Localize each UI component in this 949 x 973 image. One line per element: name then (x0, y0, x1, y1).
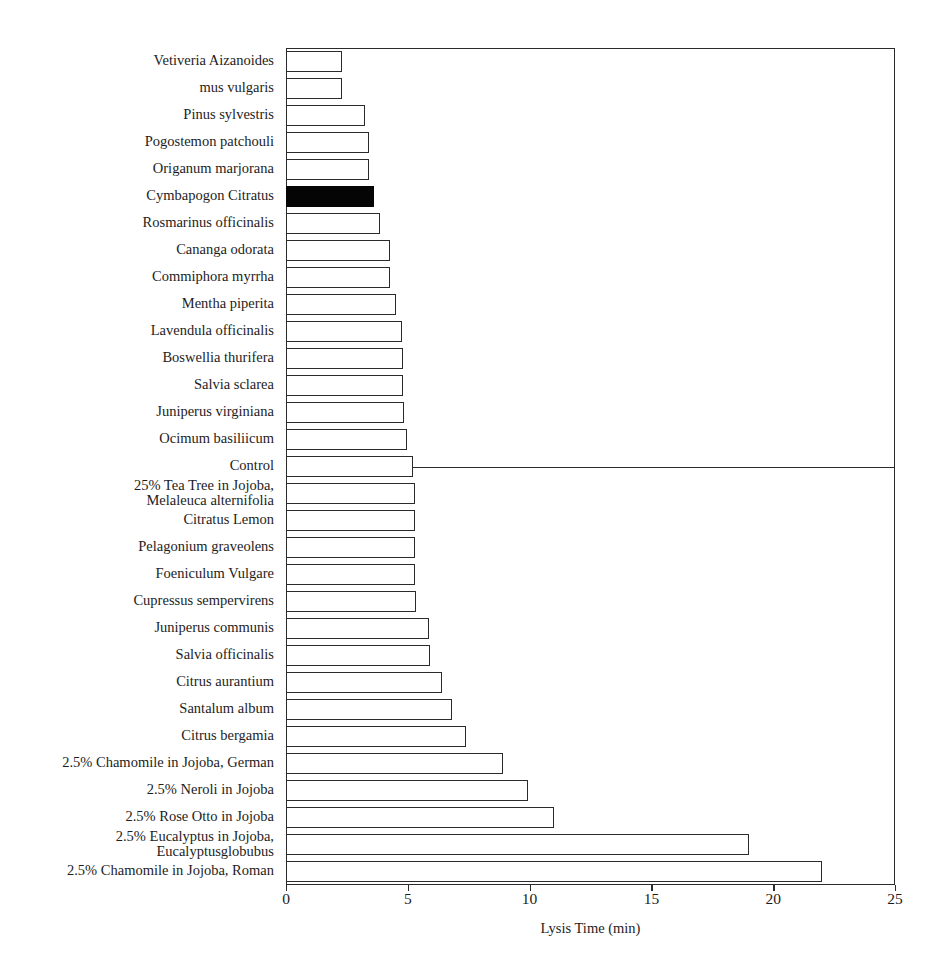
y-axis-label: 2.5% Chamomile in Jojoba, German (62, 755, 274, 771)
y-axis-label: Ocimum basiliicum (159, 431, 274, 447)
y-axis-label-line: Vetiveria Aizanoides (154, 53, 274, 69)
y-axis-label: mus vulgaris (199, 80, 274, 96)
x-axis-tick-label: 10 (522, 890, 538, 908)
bar (286, 294, 396, 316)
bar-row (286, 780, 895, 802)
bar-row (286, 807, 895, 829)
y-axis-label-line: Pinus sylvestris (183, 107, 274, 123)
y-axis-label-line: Cananga odorata (176, 242, 274, 258)
y-axis-label-line: Origanum marjorana (153, 161, 274, 177)
bar (286, 348, 403, 370)
bar-row (286, 402, 895, 424)
y-axis-label-line: Citrus bergamia (181, 728, 274, 744)
x-axis-tick-label: 0 (282, 890, 290, 908)
bar (286, 159, 369, 181)
bar-row (286, 429, 895, 451)
bar-row (286, 186, 895, 208)
y-axis-label: Foeniculum Vulgare (156, 566, 274, 582)
bar (286, 510, 415, 532)
bar (286, 456, 413, 478)
y-axis-label: 25% Tea Tree in Jojoba,Melaleuca alterni… (6, 478, 274, 509)
bar-row (286, 132, 895, 154)
y-axis-label-line: Boswellia thurifera (162, 350, 274, 366)
y-axis-label-line: Salvia sclarea (194, 377, 274, 393)
y-axis-label: Pelagonium graveolens (138, 539, 274, 555)
y-axis-label-line: Juniperus communis (154, 620, 274, 636)
bar-row (286, 753, 895, 775)
y-axis-label-line: Juniperus virginiana (156, 404, 274, 420)
y-axis-label-line: Pogostemon patchouli (145, 134, 274, 150)
y-axis-label-line: Foeniculum Vulgare (156, 566, 274, 582)
bar-row (286, 672, 895, 694)
y-axis-label-line: Eucalyptusglobubus (6, 844, 274, 860)
y-axis-label-line: 2.5% Neroli in Jojoba (147, 782, 274, 798)
bar-row (286, 699, 895, 721)
bar-row (286, 294, 895, 316)
y-axis-label: Lavendula officinalis (151, 323, 274, 339)
bar-row (286, 213, 895, 235)
bar-row (286, 240, 895, 262)
bar (286, 537, 415, 559)
bar (286, 429, 407, 451)
control-reference-line (413, 467, 895, 468)
x-axis-tick-labels: 0510152025 (286, 890, 895, 914)
y-axis-label: Santalum album (179, 701, 274, 717)
bar-row (286, 51, 895, 73)
y-axis-label: Juniperus communis (154, 620, 274, 636)
y-axis-label-line: Santalum album (179, 701, 274, 717)
y-axis-label-line: Control (230, 458, 274, 474)
y-axis-label-line: Ocimum basiliicum (159, 431, 274, 447)
y-axis-label: Boswellia thurifera (162, 350, 274, 366)
bar-row (286, 564, 895, 586)
bar-row (286, 375, 895, 397)
y-axis-label-line: Cymbapogon Citratus (146, 188, 274, 204)
x-axis-tick-label: 5 (404, 890, 412, 908)
y-axis-label: Salvia sclarea (194, 377, 274, 393)
y-axis-label: Cymbapogon Citratus (146, 188, 274, 204)
bar (286, 213, 380, 235)
bar (286, 699, 452, 721)
bar (286, 645, 430, 667)
bar-row (286, 483, 895, 505)
y-axis-label-line: Rosmarinus officinalis (143, 215, 274, 231)
y-axis-label-line: 2.5% Chamomile in Jojoba, Roman (67, 863, 274, 879)
bar-row (286, 510, 895, 532)
bar-row (286, 834, 895, 856)
y-axis-label-line: Melaleuca alternifolia (6, 493, 274, 509)
bar-row (286, 726, 895, 748)
bar (286, 105, 365, 127)
y-axis-label: Origanum marjorana (153, 161, 274, 177)
bar-row (286, 861, 895, 883)
figure-canvas: Vetiveria Aizanoidesmus vulgarisPinus sy… (0, 0, 949, 973)
page-top-clipped-text (420, 0, 940, 14)
y-axis-label: 2.5% Eucalyptus in Jojoba,Eucalyptusglob… (6, 829, 274, 860)
y-axis-label: Mentha piperita (182, 296, 274, 312)
y-axis-label: Cananga odorata (176, 242, 274, 258)
y-axis-label: Commiphora myrrha (152, 269, 274, 285)
bar (286, 618, 429, 640)
bar (286, 834, 749, 856)
y-axis-label: Salvia officinalis (176, 647, 274, 663)
bar-row (286, 321, 895, 343)
bar (286, 564, 415, 586)
bar (286, 186, 374, 208)
bar (286, 861, 822, 883)
y-axis-label-line: Citratus Lemon (183, 512, 274, 528)
y-axis-label-line: Citrus aurantium (176, 674, 274, 690)
x-axis-tick-label: 20 (765, 890, 781, 908)
bar (286, 726, 466, 748)
bar (286, 375, 403, 397)
y-axis-label-line: Cupressus sempervirens (133, 593, 274, 609)
bar-series (286, 48, 895, 885)
y-axis-label-line: 2.5% Eucalyptus in Jojoba, (6, 829, 274, 845)
bar (286, 240, 390, 262)
y-axis-label: Control (230, 458, 274, 474)
x-axis-title: Lysis Time (min) (286, 920, 895, 937)
bar (286, 267, 390, 289)
y-axis-label: 2.5% Rose Otto in Jojoba (125, 809, 274, 825)
y-axis-label-line: mus vulgaris (199, 80, 274, 96)
bar (286, 321, 402, 343)
y-axis-label: Rosmarinus officinalis (143, 215, 274, 231)
bar (286, 78, 342, 100)
bar (286, 132, 369, 154)
